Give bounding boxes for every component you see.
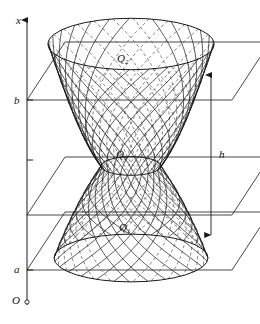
height-label-h: h (219, 148, 225, 160)
q-top-base: Q (117, 52, 125, 64)
q-middle-subscript: 0 (124, 154, 127, 161)
region-label-q-middle: Q0 (116, 148, 127, 161)
surface-outlines (48, 18, 214, 282)
axis-label-x: x (16, 14, 21, 26)
q-top-subscript: 2 (125, 58, 128, 65)
axis-tick-label-a: a (14, 263, 20, 275)
q-bottom-base: Q (119, 221, 127, 233)
region-label-q-top: Q2 (117, 52, 128, 65)
axis-tick-label-b: b (14, 94, 20, 106)
q-middle-base: Q (116, 148, 124, 160)
origin-label: O (12, 294, 20, 306)
region-label-q-bottom: Q1 (119, 221, 130, 234)
hyperboloid-diagram (0, 0, 260, 324)
q-bottom-subscript: 1 (127, 227, 130, 234)
